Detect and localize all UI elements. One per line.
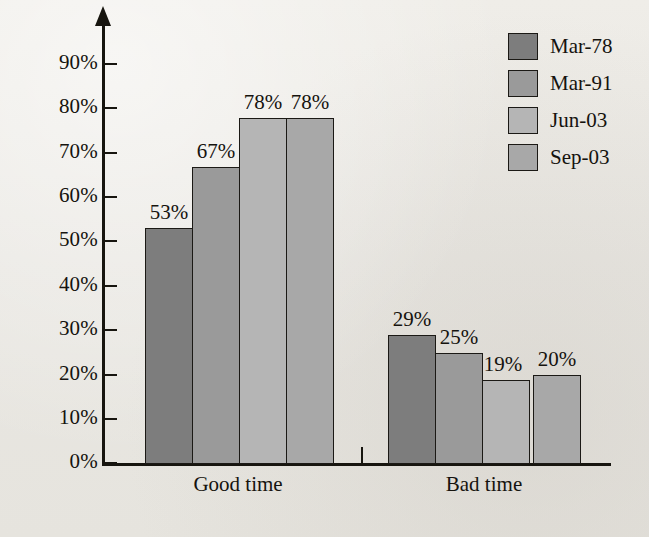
x-axis-group-separator-tick — [361, 447, 363, 464]
y-tick-label-0: 0% — [30, 449, 98, 474]
chart-page: 0% 10% 20% 30% 40% 50% 60% 70% — [0, 0, 649, 537]
bar-bad-jun03[interactable] — [482, 380, 530, 464]
y-tick-label-80: 80% — [30, 94, 98, 119]
category-label-bad-time: Bad time — [414, 472, 554, 497]
y-tick-90 — [105, 63, 117, 65]
legend-item-sep03[interactable]: Sep-03 — [508, 139, 613, 176]
y-tick-0 — [105, 462, 117, 464]
bar-good-sep03[interactable] — [286, 118, 334, 464]
bar-chart: 0% 10% 20% 30% 40% 50% 60% 70% — [0, 0, 649, 537]
y-tick-70 — [105, 152, 117, 154]
bar-label-bad-mar91: 25% — [427, 325, 491, 350]
y-tick-80 — [105, 107, 117, 109]
legend-item-mar91[interactable]: Mar-91 — [508, 65, 613, 102]
bar-good-mar91[interactable] — [192, 167, 240, 464]
bar-label-good-sep03: 78% — [278, 90, 342, 115]
y-tick-label-30: 30% — [30, 316, 98, 341]
y-tick-30 — [105, 329, 117, 331]
chart-legend: Mar-78 Mar-91 Jun-03 Sep-03 — [508, 28, 613, 176]
legend-swatch-sep03 — [508, 144, 538, 171]
y-tick-60 — [105, 196, 117, 198]
category-label-good-time: Good time — [168, 472, 308, 497]
bar-bad-sep03[interactable] — [533, 375, 581, 464]
y-tick-label-60: 60% — [30, 183, 98, 208]
y-tick-50 — [105, 240, 117, 242]
bar-good-jun03[interactable] — [239, 118, 287, 464]
legend-item-mar78[interactable]: Mar-78 — [508, 28, 613, 65]
y-tick-label-10: 10% — [30, 405, 98, 430]
legend-label-sep03: Sep-03 — [550, 145, 610, 170]
legend-item-jun03[interactable]: Jun-03 — [508, 102, 613, 139]
y-tick-10 — [105, 418, 117, 420]
bar-label-bad-sep03: 20% — [525, 347, 589, 372]
y-tick-label-90: 90% — [30, 50, 98, 75]
y-tick-label-40: 40% — [30, 272, 98, 297]
legend-label-jun03: Jun-03 — [550, 108, 607, 133]
y-tick-20 — [105, 374, 117, 376]
y-tick-label-50: 50% — [30, 227, 98, 252]
y-axis-line — [102, 22, 105, 465]
legend-swatch-jun03 — [508, 107, 538, 134]
legend-swatch-mar78 — [508, 33, 538, 60]
bar-bad-mar78[interactable] — [388, 335, 436, 464]
y-tick-label-20: 20% — [30, 361, 98, 386]
y-tick-40 — [105, 285, 117, 287]
legend-swatch-mar91 — [508, 70, 538, 97]
y-tick-label-70: 70% — [30, 139, 98, 164]
legend-label-mar91: Mar-91 — [550, 71, 613, 96]
legend-label-mar78: Mar-78 — [550, 34, 613, 59]
bar-good-mar78[interactable] — [145, 228, 193, 464]
